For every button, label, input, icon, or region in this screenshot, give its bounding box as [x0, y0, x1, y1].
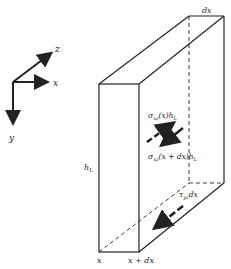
tau-arrow — [156, 206, 183, 227]
block-outline — [99, 16, 224, 252]
front-face — [99, 84, 139, 252]
z-axis-arrow — [13, 54, 50, 82]
element-diagram: z x y dx hL x x + dx σxz(x)hL σxz(x + dx… — [0, 0, 231, 269]
sigma-xdx-arrow — [163, 128, 183, 144]
y-axis-label: y — [8, 133, 15, 143]
hidden-edges — [99, 16, 224, 252]
height-label: hL — [84, 163, 93, 173]
tau-label: τyzdx — [179, 190, 198, 201]
x-bottom-label: x — [97, 256, 102, 265]
dx-top-label: dx — [202, 6, 212, 15]
x-plus-dx-label: x + dx — [128, 256, 154, 265]
x-axis-label: x — [53, 78, 58, 88]
sigma-xdx-label: σxz(x + dx)hL — [148, 152, 198, 162]
z-axis-label: z — [54, 44, 60, 54]
sigma-x-label: σxz(x)hL — [148, 111, 178, 121]
axes-triad — [13, 54, 50, 122]
